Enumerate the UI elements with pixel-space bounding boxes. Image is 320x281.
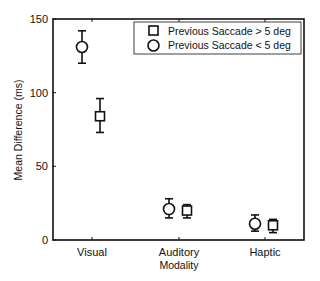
circle-marker-icon xyxy=(148,40,159,51)
y-axis: 0 50 100 150 Mean Difference (ms) xyxy=(12,13,56,246)
legend-label-lt5: Previous Saccade < 5 deg xyxy=(168,39,291,51)
legend-label-gt5: Previous Saccade > 5 deg xyxy=(168,25,291,37)
legend: Previous Saccade > 5 deg Previous Saccad… xyxy=(134,22,301,54)
x-tick-visual: Visual xyxy=(77,246,107,258)
data-points xyxy=(77,31,278,233)
circle-data-point xyxy=(164,199,175,218)
y-tick-50: 50 xyxy=(36,160,48,172)
square-data-point xyxy=(183,205,192,218)
x-tick-haptic: Haptic xyxy=(249,246,281,258)
error-bar-chart: 0 50 100 150 Mean Difference (ms) Visual… xyxy=(0,0,320,281)
y-tick-150: 150 xyxy=(30,13,48,25)
square-marker-icon xyxy=(149,26,158,35)
square-data-point xyxy=(96,99,105,133)
y-tick-0: 0 xyxy=(42,234,48,246)
circle-data-point xyxy=(250,215,261,231)
x-tick-auditory: Auditory xyxy=(159,246,200,258)
square-data-point xyxy=(269,219,278,232)
circle-data-point xyxy=(77,31,88,63)
y-tick-100: 100 xyxy=(30,87,48,99)
x-axis: Visual Auditory Haptic Modality xyxy=(77,19,281,271)
x-axis-label: Modality xyxy=(159,259,199,271)
y-axis-label: Mean Difference (ms) xyxy=(12,80,24,181)
